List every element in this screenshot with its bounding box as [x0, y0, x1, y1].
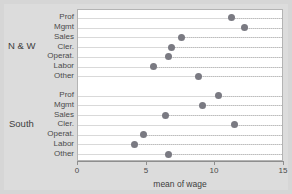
category-label: Labor	[2, 139, 74, 148]
category-label: Other	[2, 149, 74, 158]
data-point[interactable]	[231, 121, 238, 128]
category-axis-labels: ProfMgmtSalesCler.Operat.LaborOtherProfM…	[0, 9, 74, 161]
data-point[interactable]	[228, 14, 235, 21]
x-tick	[283, 161, 284, 165]
value-leader-line	[181, 37, 282, 39]
value-leader-line	[244, 28, 282, 30]
data-point[interactable]	[165, 151, 172, 158]
category-label: Prof	[2, 90, 74, 99]
x-axis	[77, 161, 283, 162]
category-label: Labor	[2, 61, 74, 70]
value-leader-line	[169, 57, 282, 59]
group-label-south: South	[9, 118, 34, 129]
data-point[interactable]	[131, 141, 138, 148]
data-point[interactable]	[165, 53, 172, 60]
data-point[interactable]	[140, 131, 147, 138]
value-leader-line	[218, 96, 282, 98]
category-label: Other	[2, 71, 74, 80]
data-point[interactable]	[162, 112, 169, 119]
value-leader-line	[203, 105, 282, 107]
category-label: Mgmt	[2, 100, 74, 109]
value-leader-line	[154, 67, 282, 69]
x-tick	[146, 161, 147, 165]
x-tick	[77, 161, 78, 165]
value-leader-line	[199, 76, 282, 78]
category-label: Operat.	[2, 51, 74, 60]
data-point[interactable]	[241, 24, 248, 31]
value-leader-line	[166, 115, 282, 117]
plot-panel	[77, 9, 283, 161]
x-tick	[214, 161, 215, 165]
value-leader-line	[235, 125, 282, 127]
value-leader-line	[169, 154, 282, 156]
value-leader-line	[134, 144, 282, 146]
x-axis-label: mean of wage	[77, 179, 283, 189]
data-point[interactable]	[199, 102, 206, 109]
category-label: Mgmt	[2, 22, 74, 31]
chart-figure: ProfMgmtSalesCler.Operat.LaborOtherProfM…	[0, 0, 292, 194]
data-point[interactable]	[150, 63, 157, 70]
group-label-nw: N & W	[8, 40, 35, 51]
value-leader-line	[171, 47, 282, 49]
data-point[interactable]	[178, 34, 185, 41]
data-point[interactable]	[215, 92, 222, 99]
value-leader-line	[232, 18, 282, 20]
x-tick-label: 0	[75, 166, 79, 175]
data-point[interactable]	[195, 73, 202, 80]
x-tick-label: 5	[144, 166, 148, 175]
data-point[interactable]	[168, 44, 175, 51]
category-label: Prof	[2, 12, 74, 21]
category-label: Operat.	[2, 129, 74, 138]
x-tick-label: 10	[210, 166, 219, 175]
x-tick-label: 15	[279, 166, 288, 175]
value-leader-line	[144, 135, 282, 137]
